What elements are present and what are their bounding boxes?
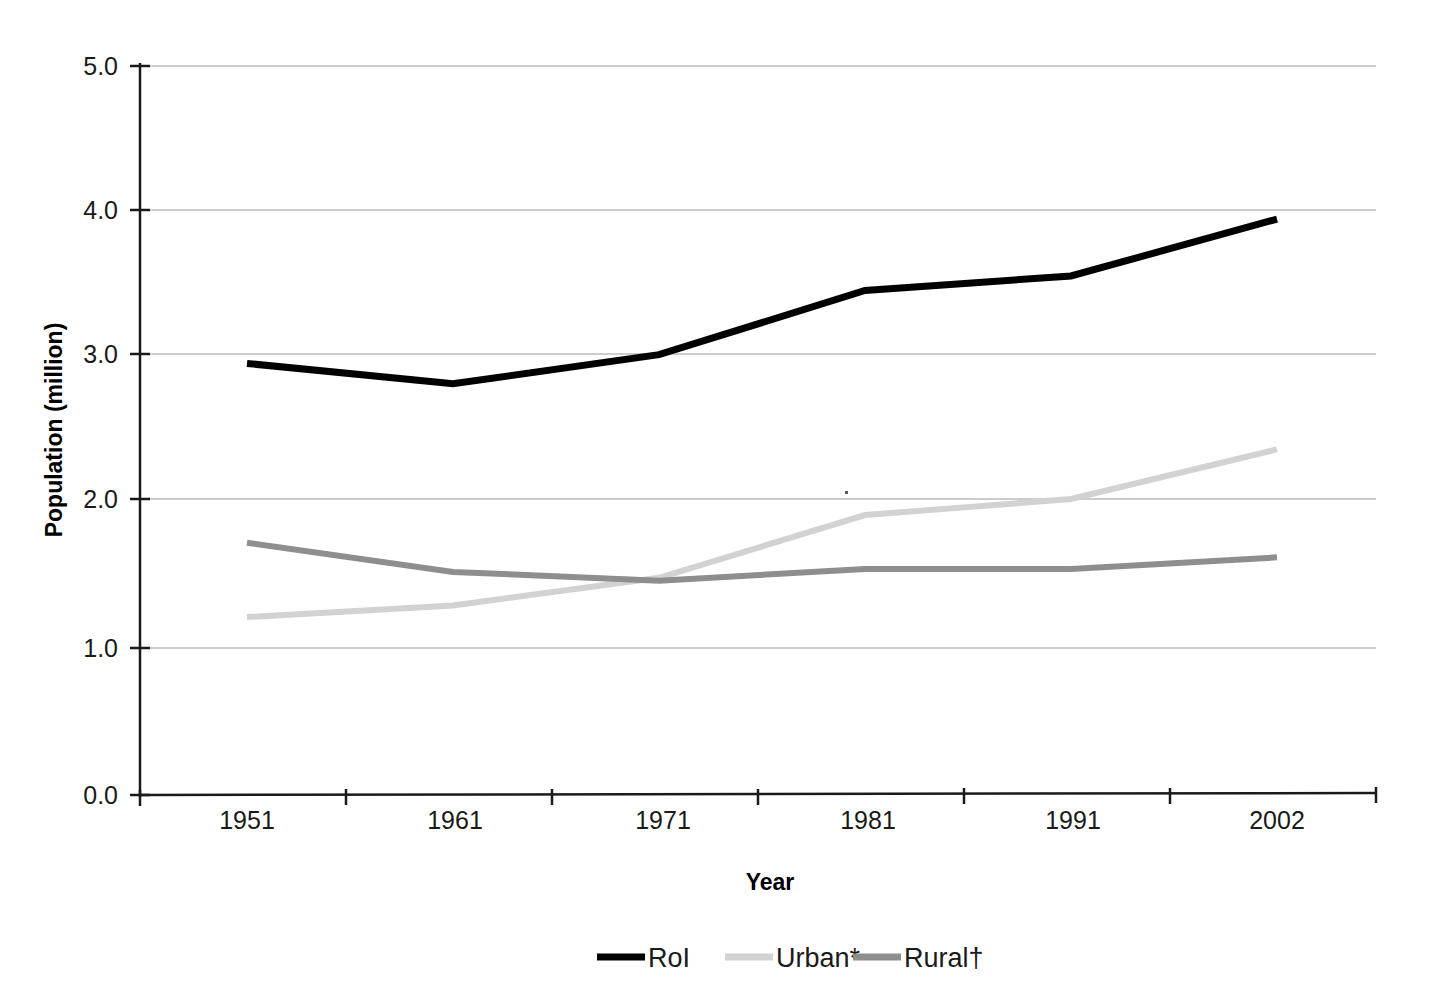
y-tick-label-1: 1.0 xyxy=(83,634,118,662)
legend: RoI Urban* Rural† xyxy=(597,943,984,973)
series-line-roi xyxy=(247,219,1277,384)
x-axis: 1951 1961 1971 1981 1991 2002 Year xyxy=(140,787,1376,895)
x-axis-title: Year xyxy=(746,869,795,895)
legend-label-rural: Rural† xyxy=(904,943,984,973)
legend-item-rural[interactable]: Rural† xyxy=(853,943,984,973)
scan-speck xyxy=(845,491,848,494)
y-axis: 5.0 4.0 3.0 2.0 1.0 0.0 Population (mill… xyxy=(41,52,150,809)
x-tick-label-1981: 1981 xyxy=(840,806,896,834)
x-tick-label-1971: 1971 xyxy=(635,806,691,834)
y-tick-label-0: 0.0 xyxy=(83,781,118,809)
legend-label-urban: Urban* xyxy=(776,943,861,973)
y-tick-label-4: 4.0 xyxy=(83,196,118,224)
series-group xyxy=(247,219,1277,617)
series-line-urban xyxy=(247,449,1277,617)
line-chart: 5.0 4.0 3.0 2.0 1.0 0.0 Population (mill… xyxy=(0,0,1435,1007)
chart-canvas: 5.0 4.0 3.0 2.0 1.0 0.0 Population (mill… xyxy=(0,0,1435,1007)
x-tick-label-1991: 1991 xyxy=(1045,806,1101,834)
legend-label-roi: RoI xyxy=(648,943,690,973)
x-tick-label-1951: 1951 xyxy=(219,806,275,834)
legend-item-roi[interactable]: RoI xyxy=(597,943,690,973)
y-tick-label-2: 2.0 xyxy=(83,485,118,513)
x-tick-label-2002: 2002 xyxy=(1249,806,1305,834)
x-tick-label-1961: 1961 xyxy=(427,806,483,834)
y-tick-label-3: 3.0 xyxy=(83,340,118,368)
legend-item-urban[interactable]: Urban* xyxy=(725,943,861,973)
y-tick-label-5: 5.0 xyxy=(83,52,118,80)
y-axis-title: Population (million) xyxy=(41,323,67,538)
